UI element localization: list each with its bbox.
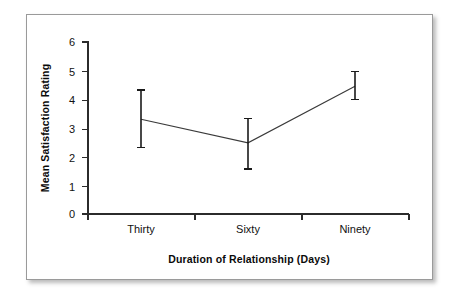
x-axis-title: Duration of Relationship (Days) xyxy=(168,253,330,265)
x-axis-ticks xyxy=(88,214,409,220)
error-bar-ninety xyxy=(351,71,359,99)
figure-root: 6 5 4 3 2 1 0 Thirty Sixty Ninety xyxy=(0,0,457,300)
y-axis-title: Mean Satisfaction Rating xyxy=(39,64,51,192)
figure-frame: 6 5 4 3 2 1 0 Thirty Sixty Ninety xyxy=(26,14,433,280)
chart-plot-area: 6 5 4 3 2 1 0 Thirty Sixty Ninety xyxy=(27,15,432,279)
y-tick-label-3: 3 xyxy=(69,123,75,135)
x-category-label-sixty: Sixty xyxy=(236,223,260,235)
x-category-label-thirty: Thirty xyxy=(127,223,155,235)
x-axis-category-labels: Thirty Sixty Ninety xyxy=(127,223,371,235)
y-tick-label-1: 1 xyxy=(69,181,75,193)
y-tick-label-0: 0 xyxy=(69,208,75,220)
x-category-label-ninety: Ninety xyxy=(339,223,371,235)
y-axis-ticks xyxy=(82,42,88,214)
error-bar-thirty xyxy=(137,90,145,148)
y-tick-label-5: 5 xyxy=(69,66,75,78)
y-tick-label-4: 4 xyxy=(69,94,75,106)
y-tick-label-6: 6 xyxy=(69,36,75,48)
error-bar-sixty xyxy=(244,118,252,168)
y-axis-tick-labels: 6 5 4 3 2 1 0 xyxy=(69,36,75,220)
y-tick-label-2: 2 xyxy=(69,152,75,164)
